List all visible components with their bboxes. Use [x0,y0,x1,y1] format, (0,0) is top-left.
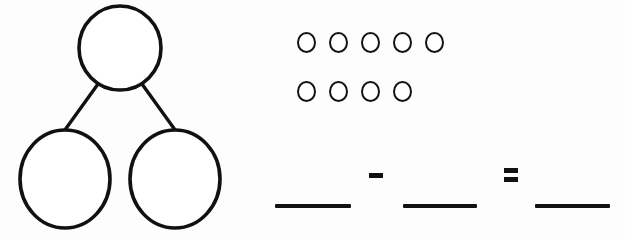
equation-blank-subtrahend[interactable] [403,204,477,208]
equation-expression-text: ___ - ___ = ___ [272,160,273,161]
counter-row-bottom [297,81,487,104]
minus-operator-icon [369,173,383,178]
counter-circle[interactable] [361,81,380,102]
counter-circle[interactable] [297,81,316,102]
equals-operator-icon [504,168,518,182]
equals-bar-top [504,168,518,173]
equals-bar-bottom [504,177,518,182]
bond-link-left [62,84,98,134]
equation-blank-minuend[interactable] [275,204,351,208]
number-bond-part-left-circle[interactable] [20,130,110,228]
counter-circle[interactable] [329,32,348,53]
counter-circle[interactable] [393,81,412,102]
worksheet-page: ___ - ___ = ___ [0,0,625,240]
number-bond-whole-circle[interactable] [79,6,161,90]
bond-link-right [142,84,178,134]
number-bond-part-right-circle[interactable] [130,130,220,228]
equation-blank-difference[interactable] [535,204,610,208]
counter-circle[interactable] [361,32,380,53]
counter-circle[interactable] [329,81,348,102]
counter-group [297,32,487,130]
equation-row: ___ - ___ = ___ [272,160,617,220]
counter-circle[interactable] [297,32,316,53]
counter-circle[interactable] [393,32,412,53]
counter-row-top [297,32,487,55]
counter-circle[interactable] [425,32,444,53]
number-bond-diagram [0,0,240,240]
